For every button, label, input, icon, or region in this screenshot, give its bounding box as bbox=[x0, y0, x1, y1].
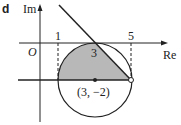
tick-1-label: 1 bbox=[55, 30, 61, 42]
shaded-region bbox=[40, 43, 131, 80]
center-point bbox=[93, 78, 97, 82]
im-axis-arrow-icon bbox=[38, 4, 43, 11]
tick-3-label: 3 bbox=[91, 47, 97, 59]
figure-label: d bbox=[2, 3, 9, 15]
re-label: Re bbox=[163, 49, 176, 61]
tick-5-label: 5 bbox=[128, 30, 134, 42]
center-label: (3, −2) bbox=[77, 86, 110, 98]
re-axis-arrow-icon bbox=[161, 41, 168, 46]
argand-diagram bbox=[0, 0, 181, 125]
im-label: Im bbox=[23, 3, 36, 15]
open-point bbox=[129, 78, 134, 83]
origin-label: O bbox=[28, 46, 37, 58]
